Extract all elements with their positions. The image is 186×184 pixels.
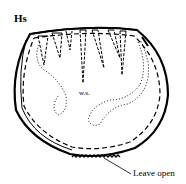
wrong-side-outline-left xyxy=(37,42,67,115)
pattern-piece-drawing xyxy=(0,0,186,184)
wrong-side-label: w.s. xyxy=(79,89,90,97)
leave-open-label: Leave open xyxy=(133,168,175,178)
leader-line xyxy=(104,158,131,174)
stitching-line xyxy=(23,33,160,148)
outer-cut-edge xyxy=(15,28,168,156)
diagram-title: Hs xyxy=(14,12,27,24)
sewing-pattern-diagram: Hs w.s. Leave open xyxy=(0,0,186,184)
